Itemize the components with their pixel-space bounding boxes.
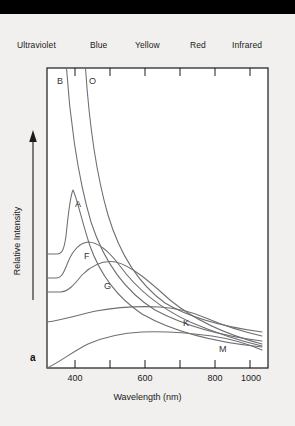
curve-label-G: G (104, 281, 111, 291)
xtick-label-800: 800 (200, 373, 230, 383)
x-axis-title: Wavelength (nm) (0, 392, 295, 402)
panel-label: a (30, 352, 36, 363)
band-label-infrared: Infrared (232, 40, 262, 50)
curve-label-A: A (75, 199, 81, 209)
band-label-ultraviolet: Ultraviolet (17, 40, 56, 50)
y-axis-arrow (29, 130, 37, 300)
band-label-yellow: Yellow (135, 40, 160, 50)
xtick-label-1000: 1000 (235, 373, 267, 383)
curve-label-O: O (89, 76, 96, 86)
plot-svg (0, 0, 295, 426)
curve-label-F: F (84, 251, 90, 261)
xtick-label-400: 400 (60, 373, 90, 383)
band-label-red: Red (190, 40, 206, 50)
band-label-blue: Blue (90, 40, 107, 50)
stellar-spectra-figure: Ultraviolet Blue Yellow Red Infrared (0, 0, 295, 426)
curve-label-B: B (57, 76, 63, 86)
xtick-label-600: 600 (130, 373, 160, 383)
curve-label-K: K (183, 318, 189, 328)
plot-area (47, 68, 268, 368)
y-axis-title: Relative Intensity (12, 176, 22, 306)
curve-label-M: M (219, 344, 227, 354)
